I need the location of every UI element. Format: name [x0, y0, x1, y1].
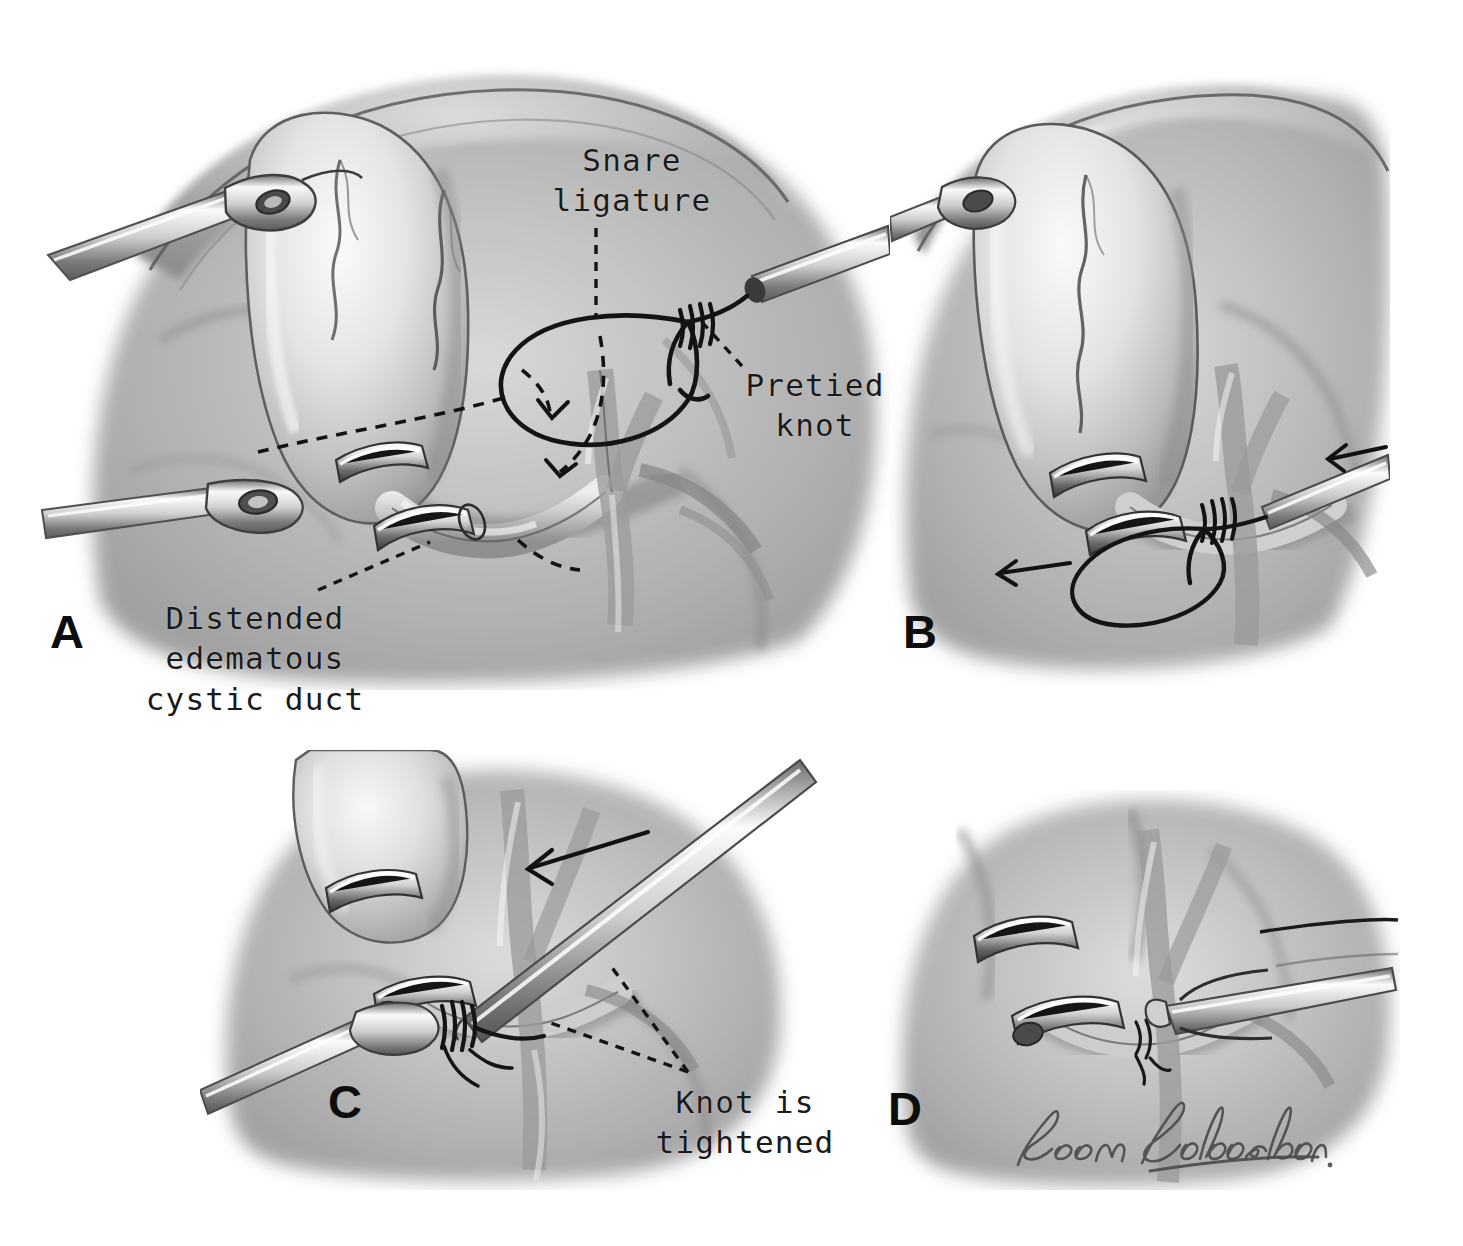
figure-root: Snare ligature Pretied knot Distended ed…: [0, 0, 1463, 1246]
panel-letter-d: D: [888, 1085, 922, 1132]
panel-letter-b: B: [903, 608, 937, 655]
label-snare-ligature: Snare ligature: [522, 140, 742, 221]
label-distended-edematous-cystic-duct: Distended edematous cystic duct: [90, 598, 420, 719]
label-knot-is-tightened: Knot is tightened: [600, 1082, 890, 1163]
panel-letter-a: A: [50, 608, 84, 655]
panel-letter-c: C: [328, 1078, 362, 1125]
artist-signature: [1000, 1085, 1340, 1175]
panel-b: [890, 55, 1390, 685]
label-pretied-knot: Pretied knot: [715, 365, 915, 446]
